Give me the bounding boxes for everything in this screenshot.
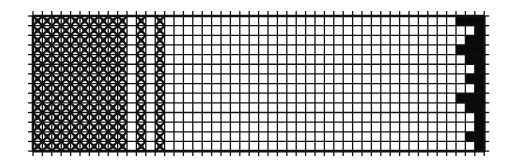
filled-cell bbox=[456, 45, 485, 55]
grid-diagram bbox=[0, 0, 513, 164]
filled-cell bbox=[456, 93, 485, 103]
filled-cell bbox=[456, 16, 485, 26]
